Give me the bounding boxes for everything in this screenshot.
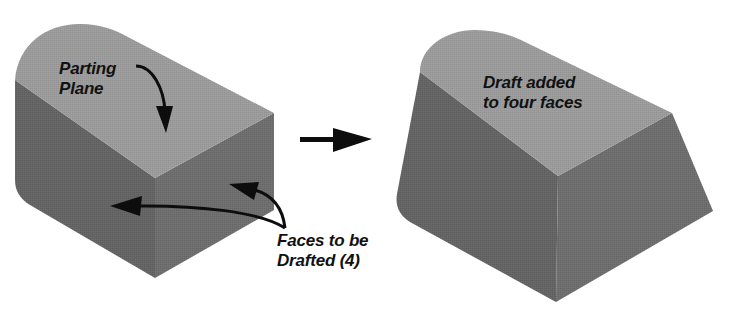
draft-added-line-1: Draft added — [483, 73, 582, 93]
faces-to-draft-label: Faces to be Drafted (4) — [277, 231, 368, 271]
draft-added-line-2: to four faces — [483, 93, 582, 113]
faces-to-draft-line-1: Faces to be — [277, 231, 368, 251]
faces-to-draft-line-2: Drafted (4) — [277, 251, 368, 271]
drafted-part — [397, 30, 713, 302]
original-part — [15, 24, 274, 278]
parting-plane-line-1: Parting — [59, 59, 116, 79]
right-arrow-icon — [300, 128, 372, 152]
parting-plane-label: Parting Plane — [59, 59, 116, 99]
draft-added-label: Draft added to four faces — [483, 73, 582, 113]
parting-plane-line-2: Plane — [59, 79, 116, 99]
draft-diagram: Parting Plane Faces to be Drafted (4) Dr… — [0, 0, 733, 316]
